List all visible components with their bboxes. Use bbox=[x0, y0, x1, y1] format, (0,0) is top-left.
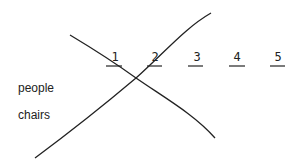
rising-curve bbox=[35, 13, 211, 158]
slot-number: 2 bbox=[147, 51, 163, 63]
row-label-chairs: chairs bbox=[18, 108, 50, 122]
row-label-people: people bbox=[18, 81, 54, 95]
slot-number: 3 bbox=[189, 51, 205, 63]
slot-number: 4 bbox=[229, 51, 245, 63]
slot-number: 1 bbox=[107, 51, 123, 63]
slot-number: 5 bbox=[270, 51, 286, 63]
